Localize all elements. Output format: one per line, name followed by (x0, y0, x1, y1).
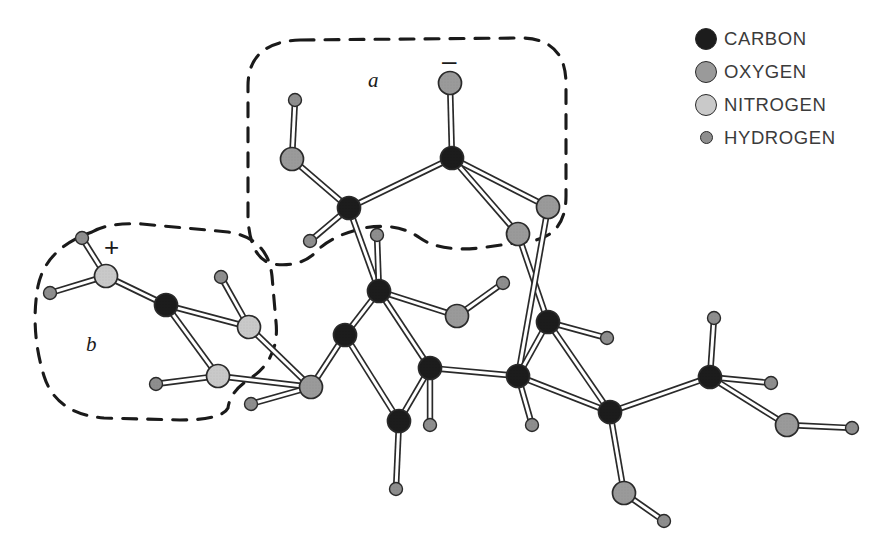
bond-nitrogen-hydrogen (53, 278, 100, 292)
nitrogen-atom-swatch (688, 94, 724, 116)
hydrogen-atom (846, 422, 859, 435)
bond-oxygen-hydrogen (462, 285, 500, 312)
hydrogen-atom (150, 378, 163, 391)
carbon-atom (334, 324, 357, 347)
hydrogen-atom (390, 483, 403, 496)
oxygen-atom (507, 223, 530, 246)
hydrogen-atom (76, 232, 89, 245)
region-a-label: a (368, 68, 379, 93)
bond-nitrogen-oxygen (224, 377, 304, 387)
hydrogen-atom (708, 312, 721, 325)
legend-label: NITROGEN (724, 94, 826, 116)
bond-nitrogen-oxygen (254, 331, 307, 382)
bond-carbon-hydrogen (396, 427, 399, 485)
carbon-atom (419, 357, 442, 380)
hydrogen-atom (289, 94, 302, 107)
bond-carbon-carbon (402, 373, 427, 415)
oxygen-atom (281, 148, 304, 171)
carbon-atom (699, 366, 722, 389)
oxygen-atom-swatch (688, 61, 724, 83)
carbon-atom (388, 410, 411, 433)
hydrogen-atom (526, 419, 539, 432)
bond-oxygen-carbon (314, 340, 341, 381)
hydrogen-atom (424, 419, 437, 432)
legend-label: HYDROGEN (724, 127, 836, 149)
carbon-atom (507, 365, 530, 388)
nitrogen-atom (95, 265, 118, 288)
carbon-atom (338, 197, 361, 220)
carbon-atom (441, 147, 464, 170)
bond-carbon-carbon (349, 296, 375, 330)
bond-carbon-hydrogen (313, 212, 344, 239)
region-b-label: b (86, 332, 97, 357)
atom-legend: CARBONOXYGENNITROGENHYDROGEN (688, 22, 878, 154)
legend-label: CARBON (724, 28, 807, 50)
legend-item-carbon: CARBON (688, 22, 878, 55)
bond-oxygen-carbon (297, 163, 344, 204)
carbon-atom (368, 280, 391, 303)
hydrogen-atom (601, 332, 614, 345)
hydrogen-atom (371, 229, 384, 242)
bond-oxygen-hydrogen (254, 389, 304, 403)
molecular-diagram-page: a b – + CARBONOXYGENNITROGENHYDROGEN (0, 0, 880, 554)
hydrogen-atom-swatch-dot (700, 131, 713, 144)
bond-carbon-hydrogen (520, 382, 531, 421)
nitrogen-atom (238, 316, 261, 339)
bond-hydrogen-nitrogen (223, 280, 246, 321)
bond-carbon-hydrogen (710, 322, 713, 371)
bond-hydrogen-carbon (377, 239, 379, 285)
bond-carbon-hydrogen (716, 378, 767, 383)
bond-carbon-carbon (436, 369, 511, 376)
oxygen-atom (446, 305, 469, 328)
nitrogen-atom-swatch-dot (695, 94, 717, 116)
carbon-atom (537, 311, 560, 334)
negative-charge-label: – (442, 48, 456, 74)
bond-carbon-carbon (351, 214, 377, 285)
hydrogen-atom (245, 398, 258, 411)
carbon-atom (155, 294, 178, 317)
bond-carbon-hydrogen (554, 324, 603, 337)
region-outlines (35, 38, 566, 420)
legend-label: OXYGEN (724, 61, 807, 83)
legend-item-oxygen: OXYGEN (688, 55, 878, 88)
oxygen-atom-swatch-dot (695, 61, 717, 83)
carbon-atom-swatch (688, 28, 724, 50)
bond-carbon-oxygen (611, 418, 623, 487)
bond-oxygen-hydrogen (793, 425, 848, 428)
oxygen-atom (300, 376, 323, 399)
hydrogen-atom (44, 287, 57, 300)
nitrogen-atom (207, 365, 230, 388)
carbon-atom (599, 401, 622, 424)
hydrogen-atom-swatch (688, 131, 724, 144)
oxygen-atom (613, 482, 636, 505)
hydrogen-atom (658, 515, 671, 528)
oxygen-atom (776, 414, 799, 437)
bond-nitrogen-hydrogen (160, 377, 212, 384)
bond-carbon-carbon (348, 340, 395, 415)
bond-carbon-oxygen (450, 89, 452, 151)
hydrogen-atom (765, 377, 778, 390)
bond-hydrogen-oxygen (292, 104, 294, 153)
hydrogen-atom (215, 271, 228, 284)
bond-carbon-carbon (616, 379, 704, 410)
legend-item-hydrogen: HYDROGEN (688, 121, 878, 154)
oxygen-atom (537, 196, 560, 219)
carbon-atom-swatch-dot (695, 28, 717, 50)
bond-carbon-carbon (355, 161, 447, 205)
bond-nitrogen-carbon (112, 279, 161, 302)
legend-item-nitrogen: NITROGEN (688, 88, 878, 121)
positive-charge-label: + (104, 234, 119, 260)
hydrogen-atom (497, 277, 510, 290)
hydrogen-atom (304, 235, 317, 248)
